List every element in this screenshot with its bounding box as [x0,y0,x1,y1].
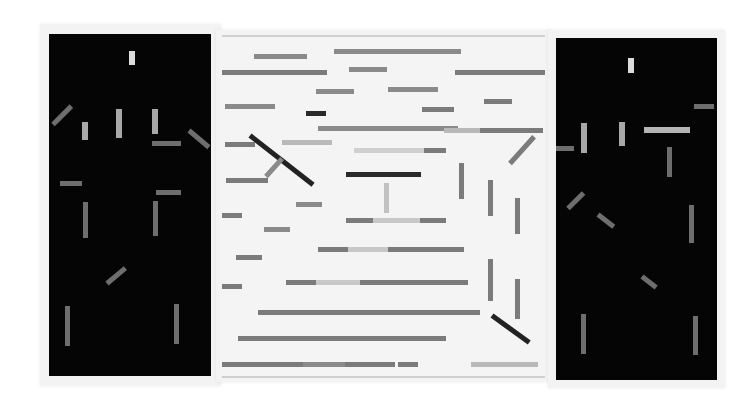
center-panel-bar [258,310,310,315]
center-panel-bar [471,362,538,367]
center-panel-bar [388,247,464,252]
right-panel-bar [566,191,585,210]
center-panel-bar [236,255,262,260]
center-panel-bar [515,279,520,319]
right-panel-bar [693,316,698,355]
left-panel-bar [82,122,88,140]
center-panel-bar [303,362,345,367]
center-panel-bar [508,135,536,165]
center-panel-bar [225,104,275,109]
center-panel-bar [222,362,303,367]
center-panel-bar [264,157,284,178]
center-panel-bar [282,140,332,145]
left-panel-bar [152,141,181,146]
right-panel-bar [667,147,672,177]
center-panel-bar [346,172,421,177]
center-panel-bar [388,87,438,92]
left-panel-bar [156,190,181,195]
center-panel-bar [225,142,255,147]
center-panel-bar [316,280,360,285]
center-panel-bar [222,213,242,218]
left-panel-bar [153,201,158,236]
center-panel-bar [254,54,307,59]
left-panel-bar [174,304,179,344]
left-panel-bar [51,104,73,126]
center-panel-bar [318,247,348,252]
right-panel-bar [556,146,574,151]
center-panel-bar [491,313,531,344]
center-panel-bar [515,198,520,234]
center-panel-bar [348,247,388,252]
center-panel-bar [424,148,446,153]
right-panel-bar [644,127,690,133]
center-panel-bar [286,280,316,285]
right-panel-bar [640,275,657,290]
center-panel-bar [459,163,464,199]
center-panel-bar [384,183,389,213]
right-panel-bar [694,104,714,109]
center-white-panel [222,35,545,378]
left-panel-bar [116,109,122,138]
center-panel-bar [360,280,468,285]
center-panel-bar [222,70,327,75]
center-panel-bar [480,128,543,133]
right-panel-bar [581,314,586,354]
center-panel-bar [306,111,326,116]
center-panel-bar [222,284,242,289]
right-panel-bar [596,213,615,229]
center-panel-bar [296,202,322,207]
left-panel-bar [129,51,135,65]
right-black-panel [556,38,717,380]
center-panel-bar [318,126,458,131]
left-panel-bar [83,202,88,238]
right-panel-bar [689,205,694,243]
left-black-panel [49,34,211,376]
center-panel-bar [349,67,387,72]
center-panel-bar [398,362,418,367]
center-panel-bar [345,362,395,367]
left-panel-bar [60,181,82,186]
center-panel-bar [484,99,512,104]
center-panel-bar [238,336,346,341]
center-panel-bar [316,89,354,94]
right-panel-bar [628,58,634,73]
center-panel-bar [422,107,454,112]
center-panel-bar [264,227,290,232]
center-panel-bar [354,148,424,153]
right-panel-bar [619,122,625,146]
center-panel-bar [488,259,493,301]
left-panel-bar [105,266,127,285]
center-panel-bar [488,180,493,216]
left-panel-bar [65,306,70,346]
center-panel-bar [420,218,446,223]
center-panel-bar [455,70,545,75]
center-panel-bar [334,49,461,54]
center-panel-bar [226,178,268,183]
center-panel-bar [373,218,420,223]
center-panel-bar [346,336,446,341]
center-panel-bar [310,310,480,315]
center-panel-bar [444,128,480,133]
left-panel-bar [152,109,158,134]
center-panel-bar [346,218,373,223]
right-panel-bar [581,123,587,153]
left-panel-bar [187,129,210,150]
